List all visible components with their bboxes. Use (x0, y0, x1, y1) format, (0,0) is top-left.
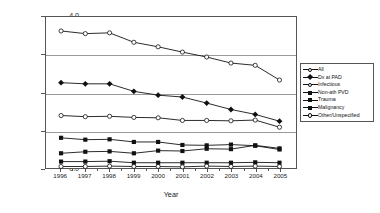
data-point-marker (180, 143, 184, 147)
data-point-marker (108, 31, 112, 35)
legend-item-infectious[interactable]: Infectious (303, 81, 371, 89)
data-point-marker (277, 125, 281, 129)
x-axis-tick-mark (158, 169, 159, 172)
data-point-marker (83, 160, 87, 164)
x-axis-minor-tick-mark (219, 169, 220, 171)
legend-item-label: All (318, 66, 324, 74)
data-point-marker (108, 114, 112, 118)
data-point-marker (83, 115, 87, 119)
series-line (61, 161, 279, 163)
series-line (61, 138, 279, 150)
x-axis-minor-tick-mark (146, 169, 147, 171)
data-point-marker (277, 146, 281, 150)
data-point-marker (132, 164, 136, 168)
data-point-marker (180, 50, 184, 54)
legend-marker-icon (303, 97, 318, 104)
x-axis-minor-tick-mark (121, 169, 122, 171)
data-point-marker (180, 149, 184, 153)
data-point-marker (277, 78, 281, 82)
x-axis-tick-mark (256, 169, 257, 172)
x-axis-tick-mark (207, 169, 208, 172)
legend-item-label: Infectious (318, 81, 340, 89)
data-point-marker (156, 164, 160, 168)
chart-figure: Incidence Rate (per 10,000 pop.) 0.01.02… (0, 0, 380, 213)
x-axis-tick-mark (60, 169, 61, 172)
legend-item-label: Other/Unspecified (318, 112, 360, 120)
data-point-marker (156, 116, 160, 120)
data-point-marker (253, 143, 257, 147)
legend-item-all[interactable]: All (303, 66, 371, 74)
x-axis-tick-mark (134, 169, 135, 172)
data-point-marker (59, 136, 63, 140)
x-axis-tick-mark (85, 169, 86, 172)
series-malignancy (59, 159, 282, 165)
data-point-marker (156, 149, 160, 153)
series-line (61, 116, 279, 128)
data-point-marker (205, 147, 209, 151)
legend-item-label: Non-ath PVD (318, 89, 349, 97)
data-point-marker (59, 151, 63, 155)
series-all (59, 29, 282, 82)
data-point-marker (277, 118, 283, 124)
x-axis-title: Year (45, 190, 297, 199)
series-line (61, 145, 279, 153)
data-point-marker (59, 160, 63, 164)
x-axis-minor-tick-mark (195, 169, 196, 171)
legend-item-trauma[interactable]: Trauma (303, 96, 371, 104)
legend-marker-icon (303, 81, 318, 88)
data-point-marker (59, 29, 63, 33)
data-point-marker (132, 115, 136, 119)
x-axis-minor-tick-mark (268, 169, 269, 171)
series-dx-at-pad (58, 80, 282, 124)
data-point-marker (83, 138, 87, 142)
data-point-marker (83, 164, 87, 168)
data-point-marker (83, 32, 87, 36)
series-layer (46, 17, 296, 168)
data-point-marker (59, 164, 63, 168)
data-point-marker (205, 55, 209, 59)
chart-legend: AllDx at PADInfectiousNon-ath PVDTraumaM… (300, 63, 374, 122)
legend-item-other-unspecified[interactable]: Other/Unspecified (303, 112, 371, 120)
plot-area (45, 16, 297, 169)
x-axis-tick-mark (109, 169, 110, 172)
x-axis-tick-mark (231, 169, 232, 172)
data-point-marker (253, 164, 257, 168)
data-point-marker (228, 107, 234, 113)
data-point-marker (156, 140, 160, 144)
data-point-marker (205, 118, 209, 122)
series-infectious (59, 113, 282, 129)
legend-item-label: Dx at PAD (318, 74, 342, 82)
data-point-marker (82, 81, 88, 87)
data-point-marker (229, 147, 233, 151)
x-axis-minor-tick-mark (244, 169, 245, 171)
series-line (61, 83, 279, 122)
data-point-marker (155, 92, 161, 98)
x-axis-minor-tick-mark (170, 169, 171, 171)
data-point-marker (156, 45, 160, 49)
data-point-marker (179, 94, 185, 100)
legend-item-malignancy[interactable]: Malignancy (303, 104, 371, 112)
series-non-ath-pvd (59, 136, 282, 152)
legend-marker-icon (303, 104, 318, 111)
y-axis-tick-mark (41, 169, 45, 170)
legend-marker-icon (303, 89, 318, 96)
data-point-marker (229, 164, 233, 168)
legend-item-label: Malignancy (318, 104, 344, 112)
x-axis-tick-mark (280, 169, 281, 172)
data-point-marker (107, 81, 113, 87)
legend-item-dx-at-pad[interactable]: Dx at PAD (303, 74, 371, 82)
data-point-marker (132, 151, 136, 155)
legend-marker-icon (303, 112, 318, 119)
data-point-marker (58, 80, 64, 86)
data-point-marker (253, 63, 257, 67)
series-line (61, 31, 279, 80)
data-point-marker (108, 137, 112, 141)
data-point-marker (277, 164, 281, 168)
data-point-marker (229, 143, 233, 147)
data-point-marker (108, 149, 112, 153)
legend-item-non-ath-pvd[interactable]: Non-ath PVD (303, 89, 371, 97)
data-point-marker (253, 118, 257, 122)
data-point-marker (204, 100, 210, 106)
x-axis-tick-label: 2005 (260, 172, 300, 179)
x-axis-minor-tick-mark (97, 169, 98, 171)
